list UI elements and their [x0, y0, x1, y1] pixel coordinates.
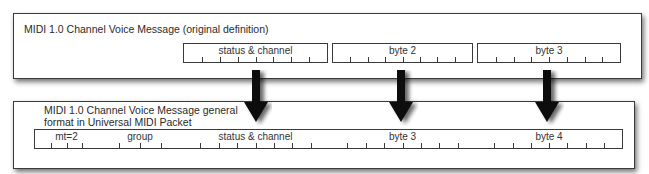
field-label: byte 3: [478, 45, 620, 56]
bit-ticks: [329, 142, 476, 148]
bit-ticks: [478, 56, 620, 62]
field-label: byte 4: [476, 131, 622, 142]
bit-ticks: [476, 142, 622, 148]
bottom-field-mt: mt=2: [34, 129, 99, 149]
field-label: byte 2: [333, 45, 472, 56]
bit-ticks: [333, 56, 472, 62]
down-arrow-icon: [388, 70, 418, 126]
field-label: status & channel: [184, 45, 327, 56]
top-field-byte-2: byte 2: [332, 43, 473, 63]
top-field-status-channel: status & channel: [183, 43, 328, 63]
field-label: group: [98, 131, 182, 142]
original-definition-title: MIDI 1.0 Channel Voice Message (original…: [24, 23, 269, 35]
down-arrow-icon: [534, 70, 564, 126]
down-arrow-icon: [242, 70, 272, 126]
field-label: byte 3: [329, 131, 476, 142]
field-label: mt=2: [35, 131, 98, 142]
ump-format-title-line2: format in Universal MIDI Packet: [44, 116, 192, 128]
bottom-field-byte-3: byte 3: [329, 129, 477, 149]
bit-ticks: [98, 142, 182, 148]
top-field-byte-3: byte 3: [477, 43, 621, 63]
ump-format-title-line1: MIDI 1.0 Channel Voice Message general: [44, 104, 238, 116]
bottom-field-status-channel: status & channel: [182, 129, 330, 149]
bottom-field-byte-4: byte 4: [476, 129, 623, 149]
bottom-field-group: group: [98, 129, 183, 149]
bit-ticks: [35, 142, 98, 148]
bit-ticks: [182, 142, 329, 148]
field-label: status & channel: [182, 131, 329, 142]
bit-ticks: [184, 56, 327, 62]
